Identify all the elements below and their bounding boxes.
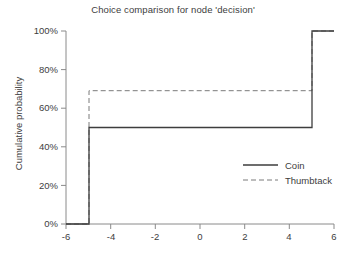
chart-figure: Choice comparison for node 'decision' Cu… (0, 0, 346, 254)
legend-label-coin: Coin (285, 160, 305, 171)
legend-label-thumbtack: Thumbtack (285, 175, 332, 186)
plot-canvas (0, 0, 346, 254)
x-tick-marks (66, 224, 334, 229)
y-tick-marks (61, 31, 66, 224)
series-line-coin (66, 31, 334, 224)
